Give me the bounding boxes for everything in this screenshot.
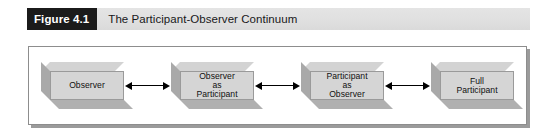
figure-caption-bar: Figure 4.1 The Participant-Observer Cont… [27, 8, 530, 30]
figure-number-badge: Figure 4.1 [27, 8, 97, 30]
node-top-face [171, 62, 254, 71]
flow-node-participant-as-observer: Participant as Observer [301, 62, 384, 109]
flow-node-label: Observer [69, 81, 105, 90]
node-front-face: Full Participant [440, 71, 514, 100]
flow-node-label: Observer as Participant [196, 72, 237, 98]
connector-arrow-3 [385, 80, 430, 92]
diagram-frame: Observer Observer as Participant [28, 46, 527, 125]
node-bottom-face [310, 100, 393, 109]
flow-node-observer-as-participant: Observer as Participant [171, 62, 254, 109]
connector-arrow-2 [255, 80, 300, 92]
flow-node-label: Participant as Observer [326, 72, 367, 98]
flow-node-label: Full Participant [456, 77, 497, 95]
arrow-head-right-icon [293, 82, 300, 90]
node-front-face: Participant as Observer [310, 71, 384, 100]
node-front-face: Observer as Participant [180, 71, 254, 100]
arrow-shaft [261, 85, 294, 87]
flow-node-observer: Observer [41, 62, 124, 109]
node-top-face [301, 62, 384, 71]
flow-node-full-participant: Full Participant [431, 62, 514, 109]
arrow-shaft [391, 85, 424, 87]
arrow-head-right-icon [423, 82, 430, 90]
arrow-shaft [131, 85, 164, 87]
continuum-flow-row: Observer Observer as Participant [29, 47, 526, 124]
arrow-head-right-icon [163, 82, 170, 90]
node-bottom-face [440, 100, 523, 109]
node-top-face [431, 62, 514, 71]
node-front-face: Observer [50, 71, 124, 100]
node-bottom-face [50, 100, 133, 109]
node-top-face [41, 62, 124, 71]
connector-arrow-1 [125, 80, 170, 92]
node-bottom-face [180, 100, 263, 109]
figure-title: The Participant-Observer Continuum [97, 8, 297, 30]
